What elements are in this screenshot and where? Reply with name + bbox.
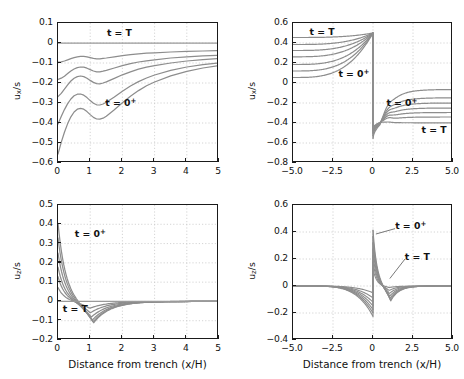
x-tick-mark [412,158,413,162]
y-tick-label: 0 [252,280,288,289]
y-tick-mark [57,261,61,262]
y-tick-label: 0.2 [17,257,53,266]
y-tick-label: 0 [17,295,53,304]
curve-annotation: t = T [310,26,335,37]
curve-annotation: t = T [405,251,430,262]
x-axis-label-bottom-left: Distance from trench (x/H) [37,358,238,370]
y-axis-label-top-left: ux/s [11,61,23,121]
curve-annotation: t = T [63,303,88,314]
x-tick-mark [332,335,333,339]
x-tick-mark [185,335,186,339]
x-tick-mark [452,158,453,162]
x-tick-label: −2.5 [310,166,354,175]
y-tick-label: −0.2 [252,307,288,316]
y-tick-label: 0 [17,37,53,46]
y-tick-label: −0.6 [252,137,288,146]
curve-annotation: t = 0+ [386,97,417,108]
y-tick-label: −0.4 [252,117,288,126]
x-tick-label: 5.0 [430,343,464,352]
curve-annotation: t = 0+ [105,97,136,108]
x-tick-mark [121,158,122,162]
y-tick-label: −0.4 [17,117,53,126]
y-tick-label: 0.2 [252,253,288,262]
figure-root: ux/s 0.10−0.1−0.2−0.3−0.4−0.5−0.6012345t… [0,0,464,379]
y-tick-label: 0.1 [17,17,53,26]
y-tick-label: −0.3 [17,97,53,106]
y-tick-label: 0.2 [252,57,288,66]
y-tick-mark [292,258,296,259]
plot-area-top-right [292,22,452,162]
y-tick-mark [57,42,61,43]
y-tick-mark [57,242,61,243]
x-tick-label: 2.5 [390,343,434,352]
y-tick-mark [292,231,296,232]
plot-area-bottom-left [57,204,218,339]
x-tick-label: 0 [350,343,394,352]
x-tick-mark [332,158,333,162]
y-tick-mark [292,102,296,103]
y-tick-label: 0.1 [17,276,53,285]
x-tick-mark [292,158,293,162]
y-tick-label: −0.6 [17,157,53,166]
y-tick-mark [57,102,61,103]
y-tick-mark [292,62,296,63]
x-tick-mark [153,335,154,339]
curve-annotation: t = T [422,124,447,135]
curve-annotation: t = 0+ [75,228,106,239]
x-tick-mark [452,335,453,339]
x-tick-label: −5.0 [270,343,314,352]
x-tick-label: 5 [196,166,240,175]
x-tick-mark [412,335,413,339]
y-axis-label-top-right: ux/s [246,61,258,121]
y-tick-label: −0.2 [17,77,53,86]
y-tick-mark [292,204,296,205]
y-tick-mark [57,204,61,205]
y-tick-mark [57,62,61,63]
y-tick-mark [292,142,296,143]
y-tick-mark [292,285,296,286]
curve-annotation: t = 0+ [338,68,369,79]
y-tick-mark [57,122,61,123]
y-tick-mark [57,142,61,143]
y-tick-mark [57,281,61,282]
y-tick-label: 0 [252,77,288,86]
y-tick-label: −0.1 [17,315,53,324]
y-tick-label: −0.2 [252,97,288,106]
x-tick-label: 5 [196,343,240,352]
y-tick-mark [292,122,296,123]
x-tick-mark [185,158,186,162]
x-tick-label: −5.0 [270,166,314,175]
y-tick-mark [292,22,296,23]
x-tick-label: −2.5 [310,343,354,352]
y-axis-label-bottom-right: uz/s [246,241,258,301]
y-tick-label: −0.1 [17,57,53,66]
x-tick-mark [121,335,122,339]
x-tick-mark [218,335,219,339]
x-tick-mark [372,158,373,162]
y-tick-label: 0.4 [252,37,288,46]
plot-area-bottom-right [292,204,452,339]
x-tick-mark [372,335,373,339]
x-tick-label: 2.5 [390,166,434,175]
x-tick-mark [292,335,293,339]
y-tick-mark [292,42,296,43]
x-tick-mark [89,335,90,339]
y-tick-mark [57,223,61,224]
x-tick-mark [57,158,58,162]
x-tick-mark [218,158,219,162]
y-tick-label: 0.4 [17,218,53,227]
y-tick-mark [57,319,61,320]
y-tick-label: 0.3 [17,238,53,247]
y-tick-mark [57,82,61,83]
x-axis-label-bottom-right: Distance from trench (x/H) [272,358,464,370]
y-tick-label: 0.6 [252,17,288,26]
y-tick-label: 0.6 [252,199,288,208]
y-tick-label: 0.4 [252,226,288,235]
y-tick-mark [292,82,296,83]
y-tick-mark [57,300,61,301]
x-tick-label: 5.0 [430,166,464,175]
x-tick-mark [89,158,90,162]
y-tick-label: −0.5 [17,137,53,146]
x-tick-label: 0 [350,166,394,175]
x-tick-mark [57,335,58,339]
